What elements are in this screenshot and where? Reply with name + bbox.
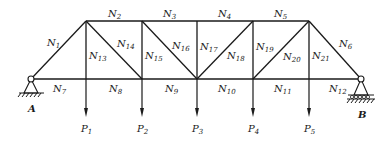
load-label-p5: P5 <box>303 123 316 136</box>
load-p5: P5 <box>303 79 316 136</box>
member-label-n21: N21 <box>311 50 330 63</box>
arrow-down-icon <box>307 108 311 117</box>
load-p4: P4 <box>247 79 259 136</box>
member-n1 <box>31 21 86 79</box>
member-label-n1: N1 <box>46 37 60 50</box>
member-label-n15: N15 <box>144 50 163 63</box>
support-label-b: B <box>357 109 366 120</box>
load-label-p3: P3 <box>191 123 204 136</box>
member-label-n16: N16 <box>171 40 190 53</box>
roller-support-b: B <box>347 76 375 120</box>
member-label-n18: N18 <box>226 50 245 63</box>
member-label-n3: N3 <box>162 8 177 21</box>
load-label-p1: P1 <box>80 123 92 136</box>
member-label-n11: N11 <box>273 83 292 96</box>
pin-support-a: A <box>18 76 44 114</box>
arrow-down-icon <box>195 108 199 117</box>
support-label-a: A <box>27 103 36 114</box>
truss-diagram: P1P2P3P4P5 N1N2N3N4N5N6N7N8N9N10N11N12N1… <box>0 0 392 141</box>
member-label-n14: N14 <box>116 38 135 51</box>
member-label-n8: N8 <box>108 83 123 96</box>
member-label-n4: N4 <box>217 8 231 21</box>
member-label-n9: N9 <box>164 83 179 96</box>
member-label-n19: N19 <box>255 41 274 54</box>
member-label-n17: N17 <box>199 41 218 54</box>
member-label-n2: N2 <box>107 8 122 21</box>
load-p2: P2 <box>136 79 149 136</box>
member-label-n12: N12 <box>328 83 347 96</box>
load-label-p2: P2 <box>136 123 149 136</box>
load-p3: P3 <box>191 79 204 136</box>
member-label-n10: N10 <box>217 83 236 96</box>
arrow-down-icon <box>140 108 144 117</box>
arrow-down-icon <box>251 108 255 117</box>
member-label-n7: N7 <box>52 83 67 96</box>
load-label-p4: P4 <box>247 123 259 136</box>
member-label-n13: N13 <box>88 50 107 63</box>
arrow-down-icon <box>84 108 88 117</box>
member-label-n5: N5 <box>273 8 288 21</box>
member-label-n6: N6 <box>338 38 353 51</box>
load-p1: P1 <box>80 79 92 136</box>
member-label-n20: N20 <box>282 51 301 64</box>
